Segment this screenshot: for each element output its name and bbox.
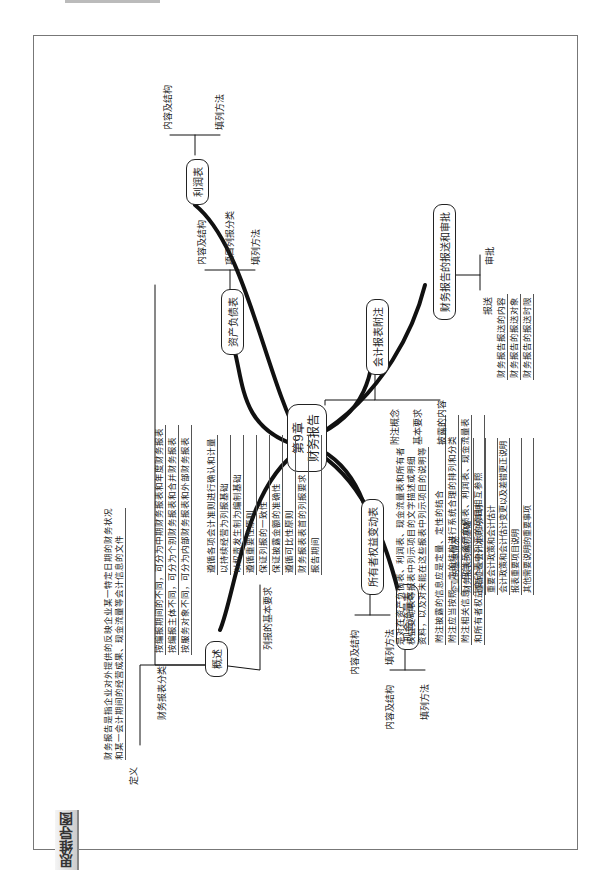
disclosure-item: 企业的基本情况 [450,438,462,595]
label-notes-concept: 附注概念 [390,409,401,445]
basic-requirement-item: 附注披露的信息应是定量、定性的结合 [433,415,446,645]
classification-list: 按编报期间的不同，可分为中期财务报表和年度财务报表 按编报主体不同，可分为个别财… [153,425,192,655]
disclosure-item: 重要会计政策和会计估计 [486,438,498,595]
disclosure-item: 报表重要项目说明 [510,438,522,595]
label-send: 报送 [483,297,494,315]
disclosure-item: 会计政策和会计估计变更以及差错更正说明 [498,438,510,595]
requirements-list: 遵循各项会计准则进行确认和计量 以持续经营为列报基础 以权责发生制为编制基础 遵… [205,435,322,575]
node-submission[interactable]: 财务报告的报送和审批 [433,204,456,320]
notes-concept-text: 是对在资产负债表、利润表、现金流量表和所有者 权益变动表等报表中列示项目的文字描… [395,447,429,645]
requirement-item: 保证列报的一致性 [257,435,270,575]
label-classification: 财务报表分类 [157,666,168,720]
label-approve: 审批 [485,247,496,265]
disclosure-item: 财务报表的编制基础 [462,438,474,595]
cash-flow-item: 内容及结构 [385,685,396,730]
node-income-statement[interactable]: 利润表 [186,159,209,205]
send-item: 财务报告报送的内容 [495,294,508,380]
requirement-item: 遵循可比性原则 [283,435,296,575]
label-disclosure: 披露的内容 [437,400,448,445]
balance-sheet-item: 项目列报分类 [225,211,236,265]
classification-item: 按服务对象不同，可分为内部财务报表和外部财务报表 [179,425,192,655]
disclosure-item: 其他需要说明的重要事项 [522,438,534,595]
balance-sheet-item: 内容及结构 [197,220,208,265]
requirement-item: 遵循各项会计准则进行确认和计量 [205,435,218,575]
label-basic-requirements: 基本要求 [413,409,424,445]
equity-item: 内容及结构 [350,630,361,675]
node-notes[interactable]: 会计报表附注 [366,299,389,375]
send-list: 财务报告报送的内容 财务报告的报送对象 财务报告的报送时限 [495,294,534,380]
mind-map-canvas: 第9章 财务报告 概述 定义 财务报告是指企业对外提供的反映企业某一特定日期的财… [45,45,565,845]
disclosure-list: 企业的基本情况 财务报表的编制基础 遵循企业会计准则的声明 重要会计政策和会计估… [450,438,534,595]
disclosure-item: 遵循企业会计准则的声明 [474,438,486,595]
send-item: 财务报告的报送对象 [508,294,521,380]
send-item: 财务报告的报送时限 [521,294,534,380]
classification-item: 按编报期间的不同，可分为中期财务报表和年度财务报表 [153,425,166,655]
requirement-item: 保证披露金额的准确性 [270,435,283,575]
requirement-item: 以权责发生制为编制基础 [231,435,244,575]
requirement-item: 遵循重要性原则 [244,435,257,575]
requirement-item: 报告期间 [309,435,322,575]
node-balance-sheet[interactable]: 资产负债表 [221,289,244,355]
balance-sheet-item: 填列方法 [251,229,262,265]
requirement-item: 财务报表表首的列报要求 [296,435,309,575]
income-item: 填列方法 [215,94,226,130]
definition-text: 财务报告是指企业对外提供的反映企业某一特定日期的财务状况 和某一会计期间的经营成… [103,508,126,760]
requirement-item: 以持续经营为列报基础 [218,435,231,575]
income-item: 内容及结构 [163,85,174,130]
label-definition: 定义 [129,767,140,785]
label-requirements: 列报的基本要求 [263,587,274,650]
page-header-remnant [65,0,160,3]
node-equity-changes[interactable]: 所有者权益变动表 [361,499,384,595]
cash-flow-item: 填列方法 [420,684,431,720]
node-overview[interactable]: 概述 [205,641,228,677]
classification-item: 按编报主体不同，可分为个别财务报表和合并财务报表 [166,425,179,655]
